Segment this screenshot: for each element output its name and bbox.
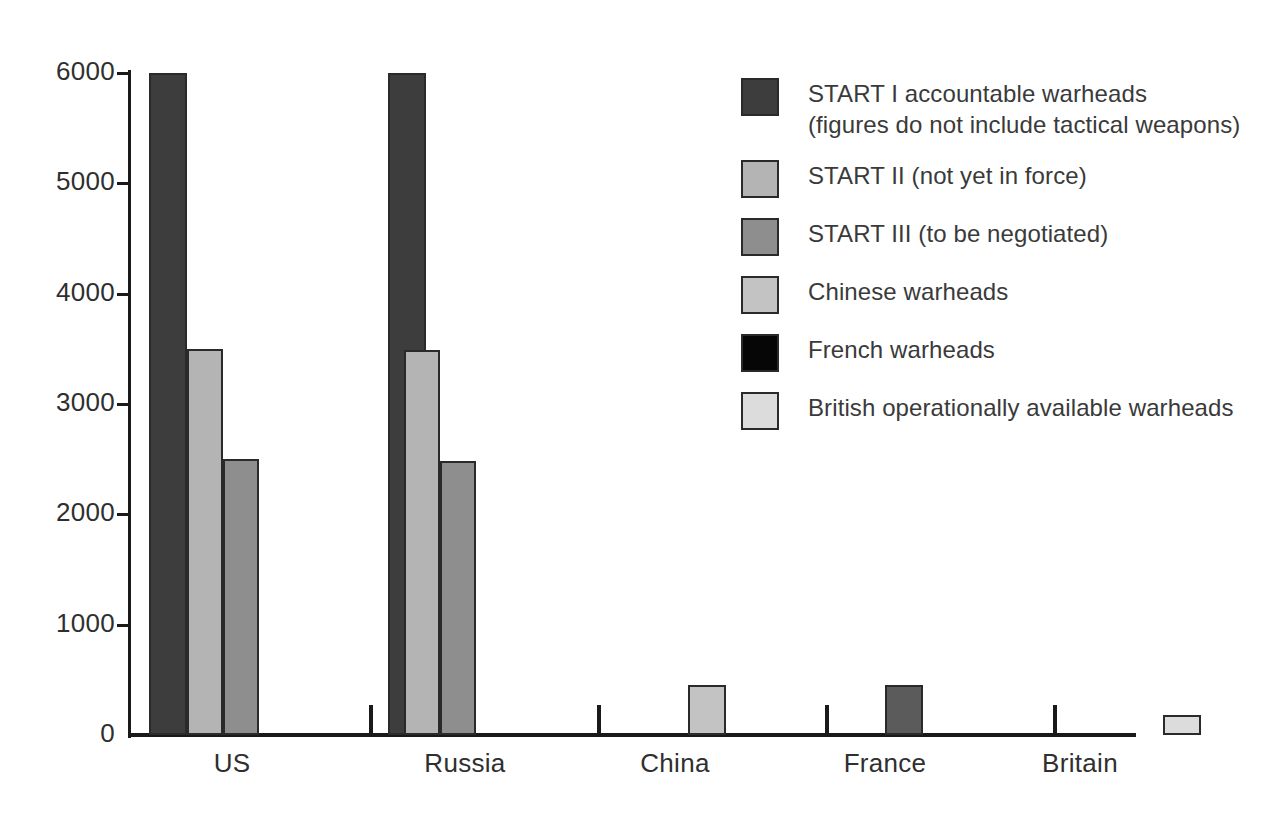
legend-item[interactable]: START II (not yet in force): [741, 160, 1087, 198]
bar-russia-start-iii: [440, 461, 476, 735]
x-axis-label-us: US: [132, 748, 332, 779]
bar-us-start-i: [149, 73, 187, 735]
bar-britain-warheads: [1163, 715, 1201, 735]
legend-label: British operationally available warheads: [808, 392, 1234, 423]
x-axis-label-russia: Russia: [365, 748, 565, 779]
legend-label: START I accountable warheads (figures do…: [808, 78, 1240, 140]
legend-swatch-icon: [741, 392, 779, 430]
bar-us-start-ii: [187, 349, 223, 735]
legend-item[interactable]: START I accountable warheads (figures do…: [741, 78, 1240, 140]
legend-swatch-icon: [741, 78, 779, 116]
x-axis-label-britain: Britain: [980, 748, 1180, 779]
x-axis-label-china: China: [575, 748, 775, 779]
legend-swatch-icon: [741, 218, 779, 256]
legend-item[interactable]: British operationally available warheads: [741, 392, 1234, 430]
bar-france-warheads: [885, 685, 923, 735]
legend-item[interactable]: START III (to be negotiated): [741, 218, 1108, 256]
legend-swatch-icon: [741, 276, 779, 314]
legend-label: START III (to be negotiated): [808, 218, 1108, 249]
legend-swatch-icon: [741, 160, 779, 198]
bar-chart: 0100020003000400050006000 USRussiaChinaF…: [0, 0, 1274, 819]
x-axis-label-france: France: [785, 748, 985, 779]
legend-label: START II (not yet in force): [808, 160, 1087, 191]
legend-item[interactable]: French warheads: [741, 334, 995, 372]
legend-swatch-icon: [741, 334, 779, 372]
bar-russia-start-ii: [404, 350, 440, 735]
bar-us-start-iii: [223, 459, 259, 735]
legend-label: Chinese warheads: [808, 276, 1008, 307]
legend-item[interactable]: Chinese warheads: [741, 276, 1008, 314]
legend-label: French warheads: [808, 334, 995, 365]
bar-china-warheads: [688, 685, 726, 735]
